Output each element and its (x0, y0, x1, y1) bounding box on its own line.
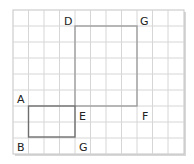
label-b: B (17, 141, 25, 154)
grid-paper (13, 10, 184, 154)
grid-diagram: D G A E F B G (0, 0, 194, 164)
label-g-bottom: G (79, 141, 88, 154)
label-e: E (79, 110, 86, 123)
label-g-top: G (140, 15, 149, 28)
label-f: F (142, 110, 148, 123)
label-a: A (17, 93, 25, 106)
label-d: D (64, 15, 72, 28)
